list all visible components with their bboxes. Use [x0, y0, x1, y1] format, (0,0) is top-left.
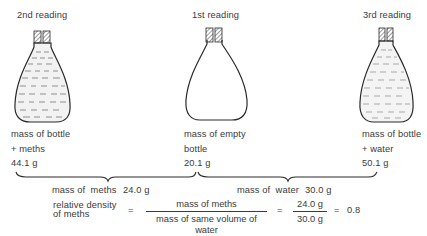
caption-meths-line2: + meths: [11, 144, 45, 155]
caption-water-line2: + water: [362, 144, 393, 155]
caption-water-line1: mass of bottle: [362, 129, 421, 140]
formula-equals-1: =: [128, 205, 134, 216]
mass-water-label: mass of water: [237, 185, 299, 196]
stopper-right-icon: [43, 31, 50, 43]
stopper-left-icon: [379, 28, 385, 41]
formula-lhs-line2: of meths: [53, 209, 89, 220]
stopper-right-icon: [387, 28, 393, 41]
caption-empty-line1: mass of empty: [184, 129, 246, 140]
value-denominator: 30.0 g: [293, 212, 327, 225]
mass-meths-label: mass of meths: [52, 185, 116, 196]
formula-ratio-fraction: mass of meths mass of same volume of wat…: [146, 199, 267, 236]
mass-empty-bottle: 20.1 g: [184, 158, 210, 169]
reading-label-third: 3rd reading: [363, 10, 411, 21]
mass-bottle-water: 50.1 g: [362, 158, 388, 169]
reading-label-second: 2nd reading: [17, 10, 67, 21]
formula-equals-2: =: [277, 205, 283, 216]
formula-value-fraction: 24.0 g 30.0 g: [293, 199, 327, 225]
bottle-meths-icon: [15, 31, 70, 122]
ratio-denominator: mass of same volume of water: [146, 212, 267, 236]
caption-empty-line2: bottle: [184, 144, 207, 155]
mass-water-value: 30.0 g: [305, 185, 331, 196]
brace-water-icon: [198, 172, 377, 181]
brace-meths-icon: [16, 172, 196, 181]
mass-bottle-meths: 44.1 g: [11, 158, 37, 169]
bottle-empty-icon: [186, 28, 247, 120]
stopper-right-icon: [215, 28, 222, 42]
bottle-water-icon: [360, 28, 413, 122]
value-numerator: 24.0 g: [293, 199, 327, 212]
ratio-numerator: mass of meths: [146, 199, 267, 212]
stopper-left-icon: [34, 31, 41, 43]
relative-density-result: 0.8: [347, 205, 360, 216]
stopper-left-icon: [206, 28, 213, 42]
formula-equals-3: =: [334, 205, 340, 216]
reading-label-first: 1st reading: [192, 10, 239, 21]
mass-meths-value: 24.0 g: [123, 185, 149, 196]
caption-meths-line1: mass of bottle: [11, 129, 70, 140]
